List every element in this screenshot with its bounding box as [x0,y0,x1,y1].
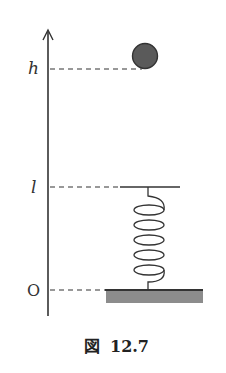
label-origin: O [27,281,40,300]
spring-ball-diagram: h l O 図 12.7 [0,0,226,373]
spring [134,187,164,290]
ball [133,44,158,69]
caption-number: 12.7 [110,337,149,356]
label-h: h [28,58,39,78]
caption-prefix: 図 [84,337,100,356]
ground-base [106,290,203,303]
label-l: l [31,177,36,197]
